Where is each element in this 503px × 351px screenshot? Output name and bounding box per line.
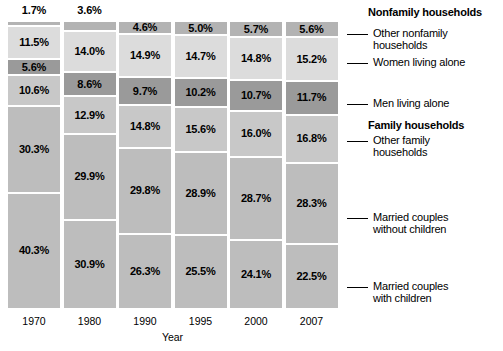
bar-segment-value: 30.3% xyxy=(19,144,49,155)
legend-label-men-living-alone: Men living alone xyxy=(373,98,449,110)
bar-column-1990: 4.6%14.9%9.7%14.8%29.8%26.3%1990 xyxy=(119,0,171,351)
legend-connector-line xyxy=(347,63,368,64)
stacked-bar-chart: 1.7%1.7%11.5%5.6%10.6%30.3%40.3%19703.6%… xyxy=(0,0,503,351)
bar-segment: 16.0% xyxy=(230,112,282,156)
bar-segment-value: 5.6% xyxy=(299,24,323,35)
bar-segment-value: 29.9% xyxy=(74,171,104,182)
chart-legend: Nonfamily households Other nonfamily hou… xyxy=(345,0,503,351)
legend-connector-line xyxy=(347,34,368,35)
bar-segment: 15.2% xyxy=(286,38,338,80)
bar-segment: 5.6% xyxy=(286,22,338,36)
legend-connector-line xyxy=(347,104,368,105)
bar-segment: 28.7% xyxy=(230,158,282,239)
bar-segment: 24.1% xyxy=(230,241,282,308)
legend-label-married-without-children: Married couples without children xyxy=(373,212,448,235)
bar-segment: 14.7% xyxy=(175,36,227,76)
bar-segment: 5.6% xyxy=(8,60,60,74)
bar-segment: 14.9% xyxy=(119,35,171,76)
bar-segment: 10.6% xyxy=(8,76,60,105)
legend-label-other-family: Other family households xyxy=(373,135,430,158)
bar-segment: 29.8% xyxy=(119,149,171,233)
bar-segment: 9.7% xyxy=(119,78,171,104)
x-axis-tick-label: 1995 xyxy=(175,315,227,327)
x-axis-tick-label: 2007 xyxy=(286,315,338,327)
x-axis-tick-label: 2000 xyxy=(230,315,282,327)
top-segment-label-1970: 1.7% xyxy=(8,4,60,16)
legend-connector-line xyxy=(347,218,368,219)
bar-segment: 1.7% xyxy=(8,22,60,25)
bar-segment-value: 29.8% xyxy=(130,185,160,196)
bar-segment: 30.3% xyxy=(8,107,60,192)
bar-segment: 10.7% xyxy=(230,81,282,110)
bar-segment-value: 28.3% xyxy=(296,198,326,209)
bar-segment-value: 11.7% xyxy=(297,92,327,103)
bar-segment-value: 30.9% xyxy=(74,259,104,270)
bar-segment: 11.7% xyxy=(286,82,338,114)
x-axis-tick-label: 1990 xyxy=(119,315,171,327)
bar-segment: 28.9% xyxy=(175,153,227,234)
bar-segment: 14.8% xyxy=(119,106,171,147)
bar-segment-value: 14.9% xyxy=(130,50,160,61)
bar-segment-value: 14.7% xyxy=(185,51,215,62)
bar-segment: 8.6% xyxy=(64,73,116,96)
bar-segment-value: 5.0% xyxy=(188,23,212,34)
bar-segment: 5.0% xyxy=(175,22,227,34)
bar-segment-value: 14.8% xyxy=(130,121,160,132)
bar-segment: 15.6% xyxy=(175,108,227,151)
bar-segment-value: 24.1% xyxy=(241,269,271,280)
bar-segment: 5.7% xyxy=(230,22,282,36)
bar-column-1970: 1.7%1.7%11.5%5.6%10.6%30.3%40.3%1970 xyxy=(8,0,60,351)
bar-segment-value: 40.3% xyxy=(19,245,49,256)
bar-column-1995: 5.0%14.7%10.2%15.6%28.9%25.5%1995 xyxy=(175,0,227,351)
x-axis-tick-label: 1970 xyxy=(8,315,60,327)
bar-segment-value: 22.5% xyxy=(296,271,326,282)
x-axis-tick-label: 1980 xyxy=(64,315,116,327)
x-axis-title: Year xyxy=(0,331,345,343)
bar-segment-value: 16.8% xyxy=(296,133,326,144)
top-segment-label-1980: 3.6% xyxy=(64,4,116,16)
bar-segment-value: 14.8% xyxy=(241,53,271,64)
bar-segment-value: 15.6% xyxy=(185,124,215,135)
bar-segment-value: 10.7% xyxy=(241,90,271,101)
bar-segment: 29.9% xyxy=(64,135,116,219)
bar-segment: 28.3% xyxy=(286,164,338,244)
bar-segment-value: 4.6% xyxy=(133,22,157,33)
bar-segment: 3.6% xyxy=(64,22,116,30)
bar-segment-value: 26.3% xyxy=(130,266,160,277)
legend-label-married-with-children: Married couples with children xyxy=(373,281,448,304)
bar-segment: 14.8% xyxy=(230,38,282,79)
plot-area: 1.7%1.7%11.5%5.6%10.6%30.3%40.3%19703.6%… xyxy=(0,0,345,351)
bar-segment-value: 16.0% xyxy=(241,128,271,139)
legend-label-other-nonfamily: Other nonfamily households xyxy=(373,28,448,51)
bar-segment-value: 11.5% xyxy=(19,37,49,48)
legend-label-women-living-alone: Women living alone xyxy=(373,57,465,69)
bar-segment-value: 10.2% xyxy=(185,87,215,98)
bar-segment-value: 28.7% xyxy=(241,193,271,204)
bar-segment: 10.2% xyxy=(175,79,227,106)
bar-segment: 26.3% xyxy=(119,235,171,309)
bar-segment-value: 25.5% xyxy=(185,266,215,277)
bar-column-2000: 5.7%14.8%10.7%16.0%28.7%24.1%2000 xyxy=(230,0,282,351)
bar-segment: 30.9% xyxy=(64,221,116,308)
bar-segment: 12.9% xyxy=(64,97,116,132)
bar-segment-value: 14.0% xyxy=(74,46,104,57)
bar-segment-value: 10.6% xyxy=(19,85,49,96)
bar-segment: 4.6% xyxy=(119,22,171,33)
bar-column-1980: 3.6%3.6%14.0%8.6%12.9%29.9%30.9%1980 xyxy=(64,0,116,351)
bar-column-2007: 5.6%15.2%11.7%16.8%28.3%22.5%2007 xyxy=(286,0,338,351)
bar-segment-value: 9.7% xyxy=(133,86,157,97)
bar-segment: 16.8% xyxy=(286,116,338,162)
legend-heading-nonfamily: Nonfamily households xyxy=(368,6,482,18)
bar-segment: 25.5% xyxy=(175,236,227,307)
legend-heading-family: Family households xyxy=(368,119,464,131)
bar-segment: 11.5% xyxy=(8,27,60,58)
bar-segment-value: 28.9% xyxy=(185,188,215,199)
legend-connector-line xyxy=(347,287,368,288)
bar-segment-value: 15.2% xyxy=(296,54,326,65)
bar-segment: 40.3% xyxy=(8,194,60,308)
bar-segment-value: 12.9% xyxy=(74,110,104,121)
bar-segment-value: 5.6% xyxy=(22,62,46,73)
bar-segment-value: 5.7% xyxy=(244,24,268,35)
bar-segment: 22.5% xyxy=(286,245,338,308)
bar-segment: 14.0% xyxy=(64,32,116,70)
